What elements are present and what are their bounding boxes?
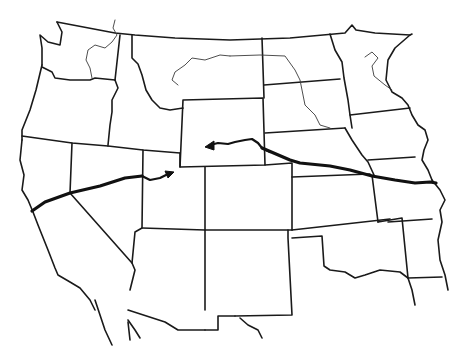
route-segment-utah [142, 174, 168, 180]
missouri-river-upper [172, 55, 230, 85]
map-canvas [0, 0, 472, 359]
missouri-river-lower [230, 55, 330, 128]
us-west-map [0, 0, 472, 359]
route-segment-wyoming [210, 139, 270, 152]
arrowhead-wyoming-icon [205, 141, 214, 150]
state-borders [20, 22, 448, 345]
route-segment-west [32, 176, 142, 211]
route-segment-plains [262, 148, 436, 183]
arrowhead-utah-icon [165, 171, 174, 178]
